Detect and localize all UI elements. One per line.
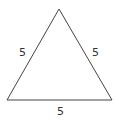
triangle-diagram (0, 0, 116, 120)
bottom-side-label: 5 (57, 106, 64, 117)
right-side-label: 5 (92, 47, 99, 58)
left-side-label: 5 (19, 47, 26, 58)
